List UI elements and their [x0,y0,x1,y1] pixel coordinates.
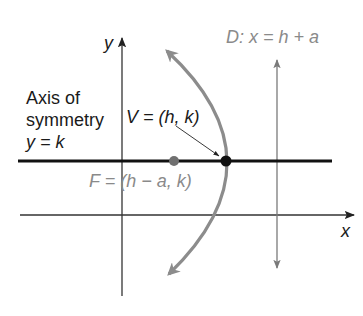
vertex-point [221,156,232,167]
vertex-label: V = (h, k) [126,108,200,126]
axis-of-symmetry-equation: y = k [26,133,65,151]
axis-of-symmetry-label-line1: Axis of [26,89,80,107]
x-axis-label: x [341,222,350,240]
axis-of-symmetry-label-line2: symmetry [26,111,104,129]
parabola-diagram [0,0,363,316]
focus-label: F = (h − a, k) [89,172,192,190]
directrix-label: D: x = h + a [226,28,319,46]
focus-point [169,156,179,166]
y-axis-label: y [104,34,113,52]
vertex-pointer-arrow [176,126,219,156]
